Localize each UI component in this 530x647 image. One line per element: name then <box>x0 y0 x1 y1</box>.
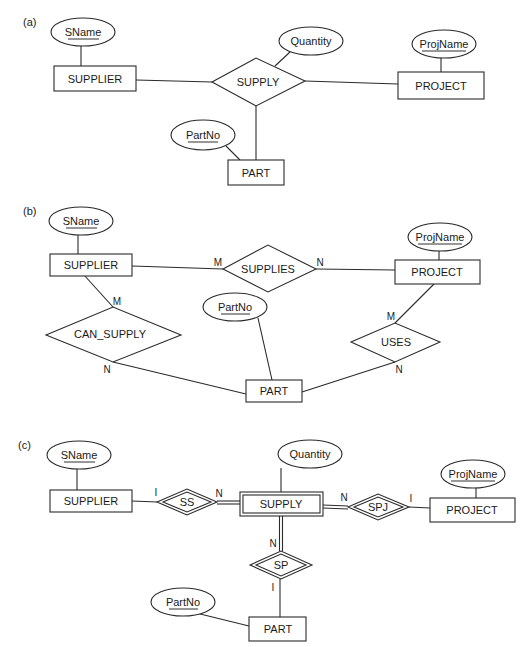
svg-text:SName: SName <box>61 449 98 461</box>
connector-partno-part <box>258 318 272 380</box>
svg-text:SUPPLIER: SUPPLIER <box>64 259 118 271</box>
attribute-quantity: Quantity <box>279 27 343 55</box>
panel-a: (a) SName SUPPLIER SUPPLY Quantity <box>23 16 484 185</box>
connector-supplier-supply <box>136 80 212 82</box>
panel-c: (c) SName SUPPLIER <box>18 439 515 641</box>
connector-supplier-supplies <box>132 266 223 269</box>
svg-text:Quantity: Quantity <box>291 35 332 47</box>
cardinality-uses-part: N <box>395 364 402 375</box>
svg-text:SUPPLY: SUPPLY <box>237 76 280 88</box>
svg-text:ProjName: ProjName <box>449 468 498 480</box>
entity-part: PART <box>246 380 302 402</box>
double-connector-ss-supply <box>217 501 240 504</box>
svg-text:SP: SP <box>274 559 289 571</box>
svg-text:SUPPLIER: SUPPLIER <box>64 495 118 507</box>
attribute-sname: SName <box>49 207 113 235</box>
connector-supplies-project <box>316 269 395 270</box>
panel-b: (b) SName SUPPLIER SUPPLIES M N <box>23 205 480 402</box>
entity-project: PROJECT <box>398 72 484 99</box>
connector-project-uses <box>395 284 434 323</box>
connector-supplier-can-supply <box>84 275 113 307</box>
attribute-partno: PartNo <box>171 120 235 150</box>
svg-text:SUPPLY: SUPPLY <box>260 498 303 510</box>
cardinality-sp-supply: N <box>269 538 276 549</box>
cardinality-sp-part: I <box>272 582 275 593</box>
cardinality-can-supply-part: N <box>103 364 110 375</box>
cardinality-supplies-project: N <box>316 257 323 268</box>
double-connector-supply-spj <box>323 505 348 509</box>
entity-project: PROJECT <box>430 498 515 522</box>
relationship-can-supply: CAN_SUPPLY <box>46 307 181 362</box>
attribute-sname: SName <box>47 441 111 469</box>
cardinality-supplies-supplier: M <box>214 257 222 268</box>
relationship-uses: USES <box>351 323 440 362</box>
svg-text:SName: SName <box>63 215 100 227</box>
svg-text:PART: PART <box>242 167 271 179</box>
cardinality-spj-supply: N <box>340 492 347 503</box>
connector-spj-project <box>409 507 430 508</box>
svg-text:SUPPLIER: SUPPLIER <box>68 73 122 85</box>
attribute-projname: ProjName <box>441 460 505 488</box>
entity-part: PART <box>228 160 284 185</box>
svg-text:PART: PART <box>264 623 293 635</box>
svg-text:PartNo: PartNo <box>218 301 252 313</box>
attribute-quantity: Quantity <box>278 440 342 468</box>
connector-quantity-supply <box>275 52 290 66</box>
panel-label-a: (a) <box>23 16 36 28</box>
cardinality-uses-project: M <box>387 311 395 322</box>
svg-text:CAN_SUPPLY: CAN_SUPPLY <box>74 328 147 340</box>
attribute-projname: ProjName <box>412 30 476 58</box>
connector-supplier-ss <box>132 501 157 502</box>
panel-label-b: (b) <box>23 205 36 217</box>
attribute-partno: PartNo <box>151 588 215 616</box>
svg-text:PART: PART <box>260 385 289 397</box>
cardinality-ss-supplier: I <box>155 487 158 498</box>
weak-entity-supply: SUPPLY <box>240 492 323 516</box>
svg-text:PartNo: PartNo <box>166 596 200 608</box>
identifying-relationship-sp: SP <box>250 551 312 579</box>
svg-text:Quantity: Quantity <box>290 448 331 460</box>
cardinality-can-supply-supplier: M <box>113 296 121 307</box>
connector-can-supply-part <box>113 362 246 394</box>
attribute-projname: ProjName <box>408 223 472 251</box>
svg-text:PROJECT: PROJECT <box>446 504 498 516</box>
entity-supplier: SUPPLIER <box>50 254 132 276</box>
er-diagram-figure: (a) SName SUPPLIER SUPPLY Quantity <box>0 0 530 647</box>
svg-text:PartNo: PartNo <box>186 129 220 141</box>
attribute-sname: SName <box>51 18 115 46</box>
svg-text:PROJECT: PROJECT <box>411 266 463 278</box>
entity-project: PROJECT <box>395 260 480 284</box>
svg-text:ProjName: ProjName <box>416 231 465 243</box>
identifying-relationship-spj: SPJ <box>348 494 409 520</box>
svg-text:SName: SName <box>65 26 102 38</box>
cardinality-spj-project: I <box>410 493 413 504</box>
panel-label-c: (c) <box>18 439 31 451</box>
svg-text:SUPPLIES: SUPPLIES <box>241 263 295 275</box>
double-connector-supply-sp <box>280 515 283 551</box>
svg-text:SS: SS <box>180 496 195 508</box>
connector-uses-part <box>302 362 395 392</box>
attribute-partno: PartNo <box>203 293 267 321</box>
svg-text:ProjName: ProjName <box>420 38 469 50</box>
identifying-relationship-ss: SS <box>157 489 217 515</box>
svg-text:PROJECT: PROJECT <box>415 80 467 92</box>
entity-part: PART <box>249 617 306 641</box>
svg-text:USES: USES <box>381 336 411 348</box>
entity-supplier: SUPPLIER <box>50 490 132 512</box>
connector-partno-part <box>226 146 240 160</box>
entity-supplier: SUPPLIER <box>54 66 136 91</box>
relationship-supplies: SUPPLIES <box>223 245 316 292</box>
connector-supply-project <box>305 81 398 84</box>
cardinality-ss-supply: N <box>215 488 222 499</box>
svg-text:SPJ: SPJ <box>368 501 388 513</box>
relationship-supply: SUPPLY <box>212 58 305 106</box>
